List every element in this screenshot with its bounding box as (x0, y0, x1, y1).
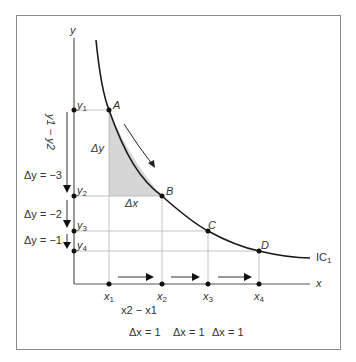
diagram-canvas (0, 0, 356, 362)
point-c-label: C (208, 220, 216, 231)
x-axis-label: x (316, 278, 322, 289)
guide-lines (74, 110, 259, 284)
x4-label: x4 (254, 291, 264, 304)
y4-label: y4 (77, 240, 87, 253)
curve-label: IC1 (316, 252, 331, 265)
y3-label: y3 (77, 220, 87, 233)
delta-x-label-1: Δx = 1 (129, 327, 161, 338)
delta-y-label-2: Δy = −2 (24, 209, 62, 220)
y1-label: y1 (77, 100, 87, 113)
y-difference-label: y1 − y2 (45, 114, 56, 150)
point-b-label: B (166, 186, 173, 197)
x-difference-label: x2 − x1 (121, 305, 157, 316)
x3-label: x3 (203, 291, 213, 304)
shaded-area (109, 110, 162, 196)
delta-y-label-3: Δy = −1 (24, 235, 62, 246)
y-axis-label: y (70, 25, 76, 36)
delta-x-label-3: Δx = 1 (212, 327, 244, 338)
x2-label: x2 (157, 291, 167, 304)
y2-label: y2 (77, 185, 87, 198)
delta-x-label-2: Δx = 1 (173, 327, 205, 338)
x1-label: x1 (104, 291, 114, 304)
delta-y-label-1: Δy = −3 (24, 170, 62, 181)
point-a-label: A (113, 100, 120, 111)
triangle-dy-label: Δy (91, 143, 104, 154)
point-d-label: D (261, 240, 269, 251)
triangle-dx-label: Δx (125, 198, 138, 209)
points (72, 108, 262, 287)
